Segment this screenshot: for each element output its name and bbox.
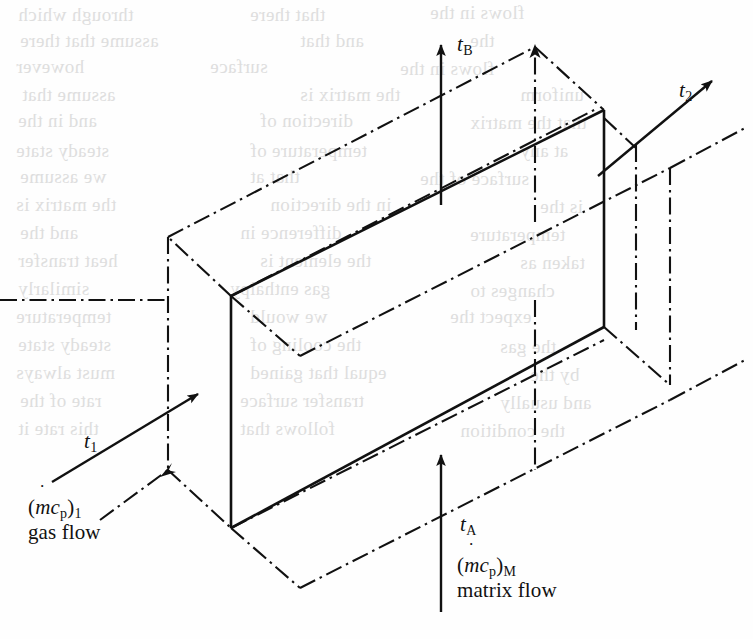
hidden-edge-bottom-front-lower <box>231 340 604 528</box>
gas-flow-label: (mcp)1 gas flow <box>28 495 101 545</box>
label-t-a: tA <box>460 512 476 537</box>
arrow-t-1 <box>52 394 198 482</box>
hidden-edge-bottom-left-connector <box>168 470 231 528</box>
solid-edge-front-bottom <box>231 327 604 528</box>
hidden-edge-top-back-right <box>535 47 604 110</box>
label-t-2: t2 <box>679 78 692 103</box>
gas-flow-expression: (mcp)1 <box>28 495 101 520</box>
hidden-edge-bottom-depth-left <box>231 528 300 588</box>
hidden-edge-depth-top-left <box>231 296 300 356</box>
hidden-edge-top-far-inner <box>300 168 670 356</box>
hidden-edge-right-top-connector <box>604 118 636 148</box>
matrix-flow-expression: (mcp)M <box>457 553 557 578</box>
matrix-flow-name: matrix flow <box>457 578 557 603</box>
hidden-edge-bottom-right-connector <box>604 327 670 385</box>
hidden-edge-lower-left-entry <box>100 470 168 520</box>
matrix-flow-label: (mcp)M matrix flow <box>457 553 557 603</box>
hidden-edge-top-left-connector <box>168 237 231 296</box>
label-t-b: tB <box>457 32 473 57</box>
gas-flow-name: gas flow <box>28 520 101 545</box>
label-t-1: t1 <box>84 429 97 454</box>
solid-edge-front-top <box>231 110 604 296</box>
hidden-edges-group <box>0 47 745 588</box>
figure-page: through whichthat thereflows in theassum… <box>0 0 753 639</box>
matrix-element-isometric-drawing <box>0 0 753 639</box>
hidden-edge-right-exit <box>670 360 745 400</box>
hidden-edge-right-top-exit <box>670 128 745 168</box>
flow-arrows-group <box>52 45 712 612</box>
hidden-edge-top-back-left <box>168 47 535 237</box>
solid-edges-group <box>231 110 604 528</box>
